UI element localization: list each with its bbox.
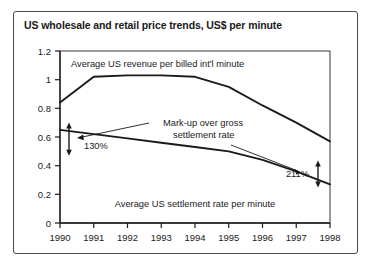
x-axis-ticks bbox=[60, 223, 330, 228]
x-tick-label-1992: 1992 bbox=[117, 232, 138, 243]
y-tick-label-0-2: 0.2 bbox=[38, 189, 51, 200]
x-tick-label-1997: 1997 bbox=[286, 232, 307, 243]
plot-area: 1.2 1 0.8 0.6 0.4 0.2 0 1990 1991 1992 1… bbox=[13, 11, 358, 254]
y-tick-label-0-8: 0.8 bbox=[38, 103, 51, 114]
markup-percent-1990: 130% bbox=[84, 141, 108, 151]
markup-arrow-1990 bbox=[66, 123, 72, 156]
x-tick-label-1990: 1990 bbox=[49, 232, 70, 243]
x-tick-label-1991: 1991 bbox=[83, 232, 104, 243]
x-tick-label-1993: 1993 bbox=[151, 232, 172, 243]
x-tick-label-1996: 1996 bbox=[252, 232, 273, 243]
y-tick-label-1-0: 1 bbox=[46, 74, 51, 85]
y-axis-ticks bbox=[55, 51, 60, 223]
y-tick-label-1-2: 1.2 bbox=[38, 46, 51, 57]
series-label-settlement: Average US settlement rate per minute bbox=[115, 199, 276, 209]
x-tick-label-1998: 1998 bbox=[319, 232, 340, 243]
markup-leader-left bbox=[77, 123, 149, 140]
x-tick-label-1995: 1995 bbox=[218, 232, 239, 243]
y-tick-label-0: 0 bbox=[46, 218, 51, 229]
markup-percent-1998: 211% bbox=[286, 169, 309, 179]
x-tick-label-1994: 1994 bbox=[184, 232, 205, 243]
chart-figure: US wholesale and retail price trends, US… bbox=[0, 0, 377, 270]
y-tick-label-0-4: 0.4 bbox=[38, 160, 51, 171]
markup-callout-line2: settlement rate bbox=[173, 130, 235, 140]
markup-arrow-1998 bbox=[315, 161, 321, 188]
series-label-revenue: Average US revenue per billed int'l minu… bbox=[71, 59, 244, 69]
markup-callout-line1: Mark-up over gross bbox=[163, 118, 243, 128]
y-tick-label-0-6: 0.6 bbox=[38, 132, 51, 143]
